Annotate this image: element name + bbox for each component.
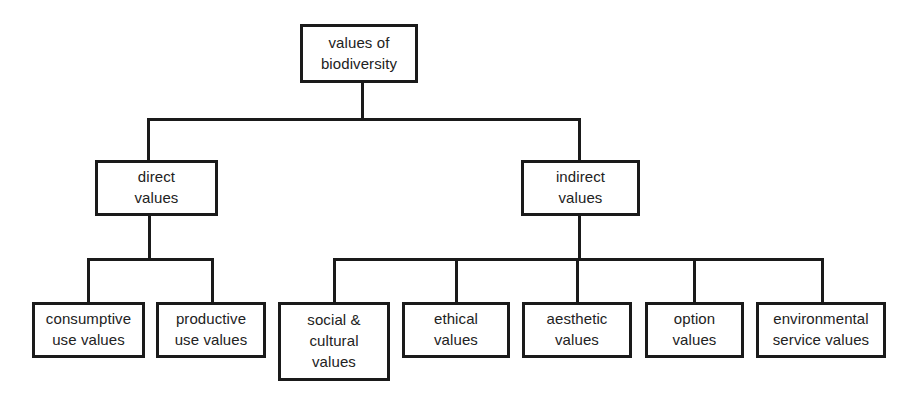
connector-root-stem	[361, 83, 364, 121]
connector-indirect-to-environmental	[821, 258, 824, 303]
node-productive-use-values: productive use values	[156, 302, 266, 358]
node-social-cultural-values: social & cultural values	[278, 302, 390, 381]
node-label: social & cultural values	[303, 310, 364, 372]
connector-indirect-stem	[578, 216, 581, 261]
connector-root-to-direct	[147, 118, 150, 160]
node-label: direct values	[131, 167, 183, 208]
node-option-values: option values	[645, 302, 744, 358]
connector-indirect-to-social-cultural	[333, 258, 336, 303]
node-label: ethical values	[430, 309, 482, 350]
node-label: aesthetic values	[543, 309, 612, 350]
node-label: values of biodiversity	[317, 33, 401, 74]
connector-direct-to-consumptive	[87, 258, 90, 303]
connector-indirect-to-aesthetic	[576, 258, 579, 303]
node-label: consumptive use values	[42, 309, 135, 350]
connector-indirect-to-option	[693, 258, 696, 303]
node-label: environmental service values	[769, 309, 873, 350]
connector-indirect-to-ethical	[455, 258, 458, 303]
node-label: productive use values	[171, 309, 252, 350]
node-values-of-biodiversity: values of biodiversity	[300, 24, 418, 83]
connector-direct-stem	[148, 216, 151, 261]
node-consumptive-use-values: consumptive use values	[32, 302, 145, 358]
connector-direct-split-bar	[87, 258, 214, 261]
node-aesthetic-values: aesthetic values	[522, 302, 632, 358]
node-direct-values: direct values	[95, 160, 218, 216]
node-ethical-values: ethical values	[402, 302, 510, 358]
node-label: indirect values	[552, 167, 609, 208]
connector-root-to-indirect	[578, 118, 581, 160]
connector-direct-to-productive	[211, 258, 214, 303]
node-indirect-values: indirect values	[521, 160, 640, 216]
connector-root-split-bar	[147, 118, 581, 121]
node-label: option values	[669, 309, 721, 350]
diagram-canvas: values of biodiversity direct values ind…	[0, 0, 914, 404]
node-environmental-service-values: environmental service values	[756, 302, 886, 358]
